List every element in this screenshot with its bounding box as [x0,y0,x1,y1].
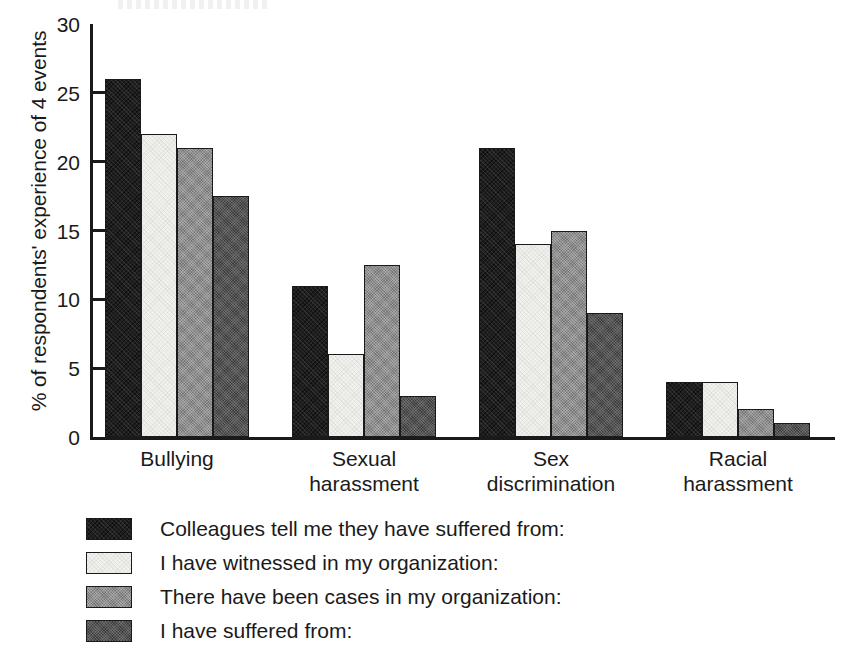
bar-chart-figure: % of respondents' experience of 4 events… [0,0,865,671]
bar [515,244,551,437]
bar [105,79,141,437]
y-tick-label-10: 10 [36,289,80,310]
bar [774,423,810,437]
y-tick-label-15: 15 [36,220,80,241]
bar [479,148,515,437]
legend-label: I have witnessed in my organization: [160,551,499,575]
legend-item: There have been cases in my organization… [86,580,786,614]
scan-artifact [118,0,268,9]
y-tick-mark-15 [90,229,107,232]
legend-swatch [86,586,132,608]
y-tick-label-25: 25 [36,82,80,103]
bar [738,409,774,437]
legend-swatch [86,518,132,540]
bar [292,286,328,437]
legend-item: I have suffered from: [86,614,786,648]
bar [400,396,436,437]
bar [177,148,213,437]
bar [551,231,587,438]
legend-swatch [86,620,132,642]
y-tick-label-30: 30 [36,14,80,35]
legend-label: There have been cases in my organization… [160,585,562,609]
legend-label: Colleagues tell me they have suffered fr… [160,517,565,541]
bar [141,134,177,437]
legend-label: I have suffered from: [160,619,352,643]
chart-legend: Colleagues tell me they have suffered fr… [86,512,786,648]
legend-item: Colleagues tell me they have suffered fr… [86,512,786,546]
category-label: Racialharassment [628,446,848,496]
y-tick-label-20: 20 [36,151,80,172]
y-tick-mark-20 [90,160,107,163]
y-tick-mark-25 [90,91,107,94]
y-tick-mark-10 [90,298,107,301]
bar [587,313,623,437]
x-axis-line [90,437,835,440]
y-tick-mark-5 [90,367,107,370]
y-axis-tick-labels: 051015202530 [36,0,80,460]
bar [328,354,364,437]
legend-swatch [86,552,132,574]
x-axis-category-labels: BullyingSexualharassmentSexdiscriminatio… [93,446,835,508]
bar [702,382,738,437]
bar [364,265,400,437]
bar [213,196,249,437]
category-label-line: harassment [628,471,848,496]
bar [666,382,702,437]
plot-area [93,24,835,437]
y-tick-label-5: 5 [36,358,80,379]
y-tick-label-0: 0 [36,427,80,448]
category-label-line: Racial [628,446,848,471]
legend-item: I have witnessed in my organization: [86,546,786,580]
